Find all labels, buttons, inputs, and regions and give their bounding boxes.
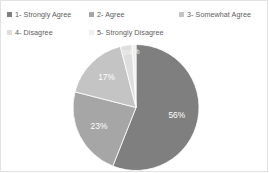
- legend-swatch-icon: [7, 30, 12, 35]
- legend-item-label: 3- Somewhat Agree: [187, 11, 251, 18]
- pie-slices: [73, 44, 199, 170]
- legend-item-label: 4- Disagree: [15, 29, 53, 36]
- legend-item-label: 5- Strongly Disagree: [97, 29, 164, 36]
- legend-item-label: 1- Strongly Agree: [15, 11, 71, 18]
- legend-item-strongly-disagree[interactable]: 5- Strongly Disagree: [89, 29, 164, 36]
- pie-chart[interactable]: 56%23%17%3%1%: [63, 43, 209, 172]
- legend-item-label: 2- Agree: [97, 11, 125, 18]
- legend-item-agree[interactable]: 2- Agree: [89, 11, 125, 18]
- pie-slice-label: 23%: [91, 121, 108, 131]
- legend-swatch-icon: [7, 12, 12, 17]
- legend-swatch-icon: [89, 30, 94, 35]
- legend-item-strongly-agree[interactable]: 1- Strongly Agree: [7, 11, 71, 18]
- legend-item-disagree[interactable]: 4- Disagree: [7, 29, 53, 36]
- legend-swatch-icon: [89, 12, 94, 17]
- pie-chart-area: 56%23%17%3%1%: [1, 41, 269, 173]
- chart-legend: 1- Strongly Agree 2- Agree 3- Somewhat A…: [1, 5, 269, 41]
- pie-slice-label: 1%: [129, 47, 140, 56]
- pie-slice-label: 17%: [98, 72, 115, 82]
- legend-item-somewhat-agree[interactable]: 3- Somewhat Agree: [179, 11, 251, 18]
- pie-slice-label: 56%: [168, 110, 185, 120]
- chart-frame: 1- Strongly Agree 2- Agree 3- Somewhat A…: [0, 0, 268, 172]
- legend-swatch-icon: [179, 12, 184, 17]
